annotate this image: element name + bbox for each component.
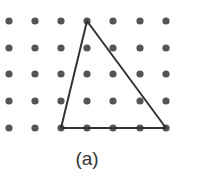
grid-dot bbox=[57, 70, 64, 77]
grid-dot bbox=[31, 97, 38, 104]
grid-dot bbox=[162, 97, 169, 104]
grid-dot bbox=[31, 17, 38, 24]
grid-dot bbox=[31, 44, 38, 51]
grid-dot bbox=[162, 17, 169, 24]
grid-dot bbox=[136, 97, 143, 104]
grid-dot bbox=[5, 97, 12, 104]
grid-dot bbox=[31, 124, 38, 131]
grid-dot bbox=[109, 44, 116, 51]
grid-dot bbox=[109, 17, 116, 24]
dot-grid bbox=[5, 17, 169, 131]
grid-dot bbox=[83, 70, 90, 77]
grid-dot bbox=[57, 97, 64, 104]
grid-dot bbox=[5, 17, 12, 24]
grid-dot bbox=[162, 44, 169, 51]
grid-dot bbox=[162, 70, 169, 77]
grid-dot bbox=[136, 70, 143, 77]
figure-label: (a) bbox=[75, 148, 98, 169]
grid-dot bbox=[83, 44, 90, 51]
grid-dot bbox=[5, 70, 12, 77]
grid-dot bbox=[5, 124, 12, 131]
grid-dot bbox=[83, 97, 90, 104]
grid-dot bbox=[109, 70, 116, 77]
dot-grid-figure: (a) bbox=[0, 0, 207, 186]
grid-dot bbox=[57, 44, 64, 51]
grid-dot bbox=[136, 44, 143, 51]
grid-dot bbox=[5, 44, 12, 51]
grid-dot bbox=[57, 17, 64, 24]
grid-dot bbox=[136, 17, 143, 24]
grid-dot bbox=[109, 97, 116, 104]
grid-dot bbox=[31, 70, 38, 77]
